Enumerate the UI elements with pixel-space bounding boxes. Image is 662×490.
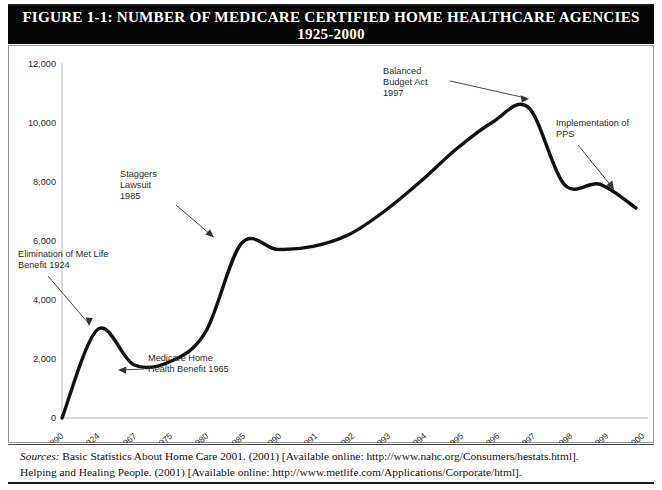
line-chart: 12,000 10,000 8,000 6,000 4,000 2,000 0 … [8,45,654,443]
sources-block: Sources: Basic Statistics About Home Car… [20,449,650,480]
x-tick-label: 1999 [589,431,610,443]
annotation-arrowhead [118,367,126,374]
x-tick-label: 1996 [480,431,501,443]
x-tick-label: 1995 [444,431,465,443]
annotation-line: 1997 [383,88,403,98]
y-tick-label: 6,000 [33,236,56,246]
y-tick-label: 2,000 [33,354,56,364]
x-tick-label: 1975 [153,431,174,443]
x-tick-label: 1994 [407,431,428,443]
y-axis-ticks: 12,000 10,000 8,000 6,000 4,000 2,000 0 [28,59,56,424]
annotation-line: PPS [556,129,574,139]
x-tick-label: 1998 [553,431,574,443]
x-axis-ticks: 1890 1924 1967 1975 1980 1985 1990 1991 … [44,431,646,443]
x-tick-label: 1924 [80,431,101,443]
annotation-line: Elimination of Met Life [18,249,108,259]
x-tick-label: 1985 [226,431,247,443]
annotation-pps: Implementation of PPS [556,118,629,190]
x-tick-label: 1992 [335,431,356,443]
x-tick-label: 1890 [44,431,65,443]
sources-rule [8,444,654,445]
y-tick-label: 4,000 [33,295,56,305]
bottom-rule [8,482,654,484]
figure-title-line-2: 1925-2000 [8,25,654,42]
x-tick-label: 1993 [371,431,392,443]
figure-title-line-1: FIGURE 1-1: NUMBER OF MEDICARE CERTIFIED… [8,8,654,25]
x-tick-label: 1967 [117,431,138,443]
sources-label: Sources: [20,450,59,462]
annotation-leader-line [578,145,612,187]
annotation-leader-line [176,205,211,235]
y-tick-label: 12,000 [28,59,56,69]
annotation-met-life: Elimination of Met Life Benefit 1924 [18,249,108,326]
annotation-line: Health Benefit 1965 [148,364,229,374]
x-tick-label: 1990 [262,431,283,443]
annotation-line: Staggers [120,169,157,179]
annotation-line: Medicare Home [148,353,213,363]
annotation-balanced-budget: Balanced Budget Act 1997 [383,66,529,102]
y-tick-label: 8,000 [33,177,56,187]
x-tick-label: 1991 [298,431,319,443]
x-tick-label: 1997 [516,431,537,443]
sources-line-2: Helping and Healing People. (2001) [Avai… [20,465,650,481]
annotation-line: Budget Act [383,77,428,87]
annotation-line: Implementation of [556,118,629,128]
annotation-arrowhead [205,229,214,237]
x-tick-label: 2000 [625,431,646,443]
sources-line-1: Sources: Basic Statistics About Home Car… [20,449,650,465]
annotation-arrowhead [521,95,529,102]
annotation-line: 1985 [120,191,140,201]
y-tick-label: 0 [51,413,56,423]
figure-container: FIGURE 1-1: NUMBER OF MEDICARE CERTIFIED… [0,0,662,490]
y-tick-label: 10,000 [28,118,56,128]
annotation-line: Lawsuit [120,180,152,190]
figure-title-bar: FIGURE 1-1: NUMBER OF MEDICARE CERTIFIED… [8,6,654,44]
annotation-line: Benefit 1924 [18,260,70,270]
x-tick-label: 1980 [189,431,210,443]
annotation-line: Balanced [383,66,421,76]
annotation-staggers: Staggers Lawsuit 1985 [120,169,214,238]
sources-text-1: Basic Statistics About Home Care 2001. (… [59,450,578,462]
annotation-leader-line [450,81,526,98]
